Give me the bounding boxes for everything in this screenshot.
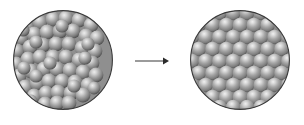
right-sphere-lattice [178,6,303,115]
transition-arrow [135,58,169,65]
left-sphere-cluster [9,11,105,112]
arrow-head-icon [163,58,169,65]
diagram-canvas [0,0,304,125]
disordered-sphere-packing [9,11,113,112]
ordered-sphere-packing [178,6,303,115]
figure-root: Disorder-to-order transition of packed s… [0,0,304,125]
